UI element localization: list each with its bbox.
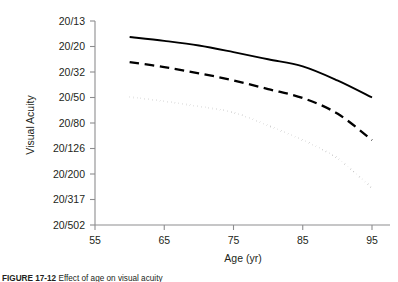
x-tick-label: 85 [297,234,309,246]
y-tick-label: 20/126 [53,142,85,154]
y-tick-label: 20/502 [53,219,85,231]
visual-acuity-line-chart: 20/1320/2020/3220/5020/8020/12620/20020/… [0,0,398,282]
x-tick-label: 95 [366,234,378,246]
x-tick-label: 55 [89,234,101,246]
y-tick-label: 20/200 [53,168,85,180]
y-tick-label: 20/32 [59,66,85,78]
y-tick-label: 20/50 [59,91,85,103]
y-axis-title: Visual Acuity [24,95,36,155]
figure-caption: FIGURE 17-12 Effect of age on visual acu… [2,274,396,282]
figure-caption-text: Effect of age on visual acuity [58,274,162,282]
y-tick-label: 20/20 [59,40,85,52]
figure-number: FIGURE 17-12 [2,274,56,282]
y-tick-label: 20/13 [59,15,85,27]
y-tick-label: 20/80 [59,117,85,129]
x-tick-label: 65 [158,234,170,246]
y-tick-label: 20/317 [53,193,85,205]
figure-container: 20/1320/2020/3220/5020/8020/12620/20020/… [0,0,398,282]
x-axis-title: Age (yr) [224,252,261,264]
x-tick-label: 75 [228,234,240,246]
